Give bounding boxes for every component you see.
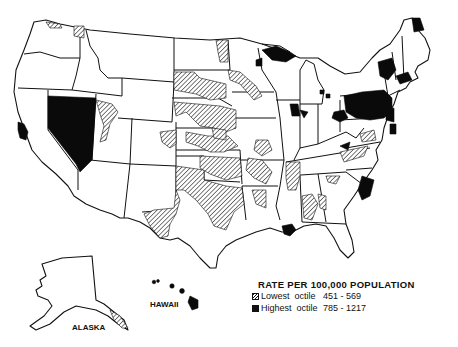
legend-label: Lowest octile	[261, 291, 323, 301]
hawaii-island-maui	[180, 289, 185, 294]
hatched-swatch-icon	[252, 293, 259, 300]
legend-row-lowest: Lowest octile 451 - 569	[252, 290, 415, 302]
legend-range: 785 - 1217	[323, 303, 393, 313]
area-maine-north	[412, 18, 424, 32]
area-delaware-md	[390, 124, 396, 134]
hawaii-island-big	[188, 296, 198, 310]
alaska-label: ALASKA	[72, 323, 106, 332]
hawaii-island-kauai	[152, 280, 156, 284]
area-illinois-chicago	[290, 104, 300, 116]
legend-label: Highest octile	[261, 303, 323, 313]
legend-range: 451 - 569	[323, 291, 393, 301]
hawaii-label: HAWAII	[150, 300, 178, 309]
legend-title: RATE PER 100,000 POPULATION	[258, 279, 415, 290]
alaska-inset: ALASKA	[30, 256, 128, 332]
map-legend: RATE PER 100,000 POPULATION Lowest octil…	[252, 279, 415, 314]
area-wa-northeast	[74, 26, 84, 38]
hawaii-island-niihau	[157, 280, 160, 283]
hawaii-inset: HAWAII	[150, 280, 198, 310]
legend-row-highest: Highest octile 785 - 1217	[252, 302, 415, 314]
hawaii-island-oahu	[170, 284, 174, 288]
solid-swatch-icon	[252, 305, 259, 312]
area-new-jersey	[386, 108, 394, 122]
area-iowa-south	[212, 128, 226, 140]
